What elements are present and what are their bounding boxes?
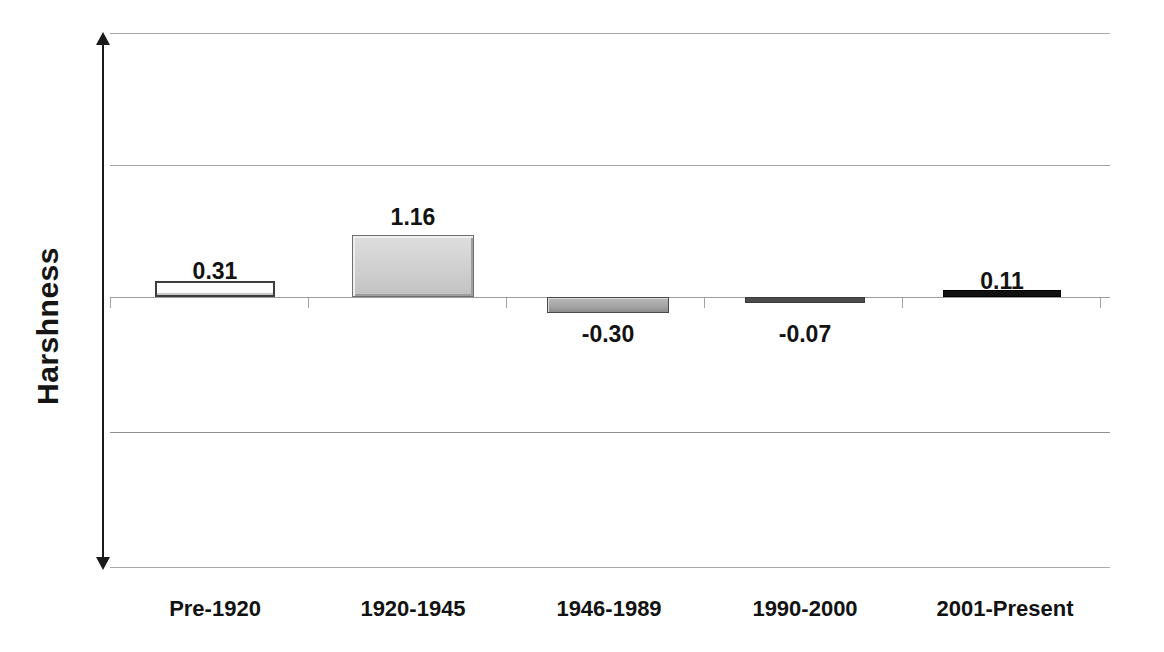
bar-value-label: 1.16: [352, 204, 474, 231]
axis-arrow-down-icon: [96, 557, 110, 570]
category-label: 1990-2000: [720, 596, 890, 622]
gridline-bottom: [110, 567, 1110, 568]
harshness-bar-chart: Harshness 0.311.16-0.30-0.070.11 Pre-192…: [0, 0, 1164, 652]
bar-value-label: 0.11: [943, 268, 1061, 295]
axis-tick: [506, 298, 507, 308]
category-label: 1946-1989: [524, 596, 694, 622]
bar[interactable]: [547, 297, 669, 313]
bar-value-label: -0.07: [745, 321, 865, 348]
category-label: Pre-1920: [130, 596, 300, 622]
bar-value-label: -0.30: [547, 321, 669, 348]
bar[interactable]: [745, 297, 865, 303]
bar[interactable]: [352, 235, 474, 297]
axis-tick: [1100, 298, 1101, 308]
axis-tick: [308, 298, 309, 308]
value-axis: [96, 32, 110, 570]
gridline-upper: [110, 165, 1110, 166]
axis-tick: [110, 298, 111, 308]
category-label: 2001-Present: [912, 596, 1098, 622]
axis-shaft: [102, 40, 104, 562]
axis-tick: [704, 298, 705, 308]
plot-area: 0.311.16-0.30-0.070.11: [110, 30, 1110, 570]
gridline-top: [110, 33, 1110, 34]
y-axis-title-text: Harshness: [31, 247, 65, 405]
bar-value-label: 0.31: [155, 258, 275, 285]
category-label: 1920-1945: [328, 596, 498, 622]
y-axis-title: Harshness: [0, 0, 96, 652]
gridline-lower: [110, 432, 1110, 433]
axis-tick: [902, 298, 903, 308]
